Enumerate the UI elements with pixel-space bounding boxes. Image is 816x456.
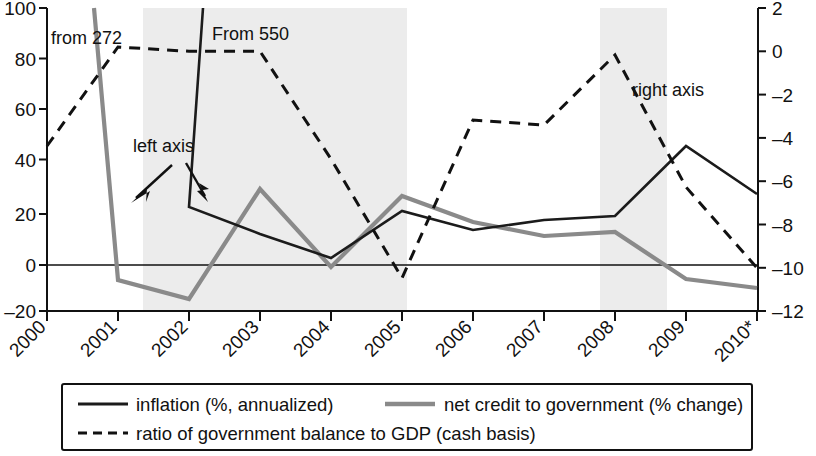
left-tick-label-100: 100 xyxy=(4,0,36,19)
annotation-from-550-label: From 550 xyxy=(212,24,289,44)
left-axis-ticks: 100 80 60 40 20 0 –20 xyxy=(4,0,47,322)
annotation-from-272-label: from 272 xyxy=(51,28,122,48)
left-tick-label-80: 80 xyxy=(15,49,36,70)
annotation-from-272: from 272 xyxy=(51,28,122,48)
x-axis-ticks: 2000 2001 2002 2003 2004 2005 2006 2007 … xyxy=(5,311,760,366)
right-tick-label-neg6: –6 xyxy=(772,171,793,192)
annotation-right-axis: right axis xyxy=(632,80,704,100)
x-tick-label-2009: 2009 xyxy=(644,316,689,361)
right-tick-label-neg4: –4 xyxy=(772,128,794,149)
right-tick-label-0: 0 xyxy=(772,41,783,62)
x-tick-label-2004: 2004 xyxy=(289,316,334,361)
right-tick-label-neg2: –2 xyxy=(772,85,793,106)
chart-svg: 100 80 60 40 20 0 –20 2 0 –2 –4 –6 –8 –1… xyxy=(0,0,816,456)
x-tick-label-2006: 2006 xyxy=(431,316,476,361)
right-tick-label-2: 2 xyxy=(772,0,783,19)
right-axis-ticks: 2 0 –2 –4 –6 –8 –10 –12 xyxy=(758,0,804,322)
x-tick-label-2010: 2010* xyxy=(710,316,760,366)
annotation-from-550: From 550 xyxy=(212,24,289,44)
x-tick-label-2007: 2007 xyxy=(502,316,547,361)
right-tick-label-neg10: –10 xyxy=(772,258,804,279)
legend-label-inflation: inflation (%, annualized) xyxy=(136,394,333,415)
chart-figure: 100 80 60 40 20 0 –20 2 0 –2 –4 –6 –8 –1… xyxy=(0,0,816,456)
x-tick-label-2005: 2005 xyxy=(360,316,405,361)
legend-label-net-credit: net credit to government (% change) xyxy=(444,394,743,415)
x-tick-label-2008: 2008 xyxy=(573,316,618,361)
right-tick-label-neg12: –12 xyxy=(772,301,804,322)
x-tick-label-2000: 2000 xyxy=(5,316,50,361)
x-tick-label-2003: 2003 xyxy=(218,316,263,361)
left-tick-label-40: 40 xyxy=(15,150,36,171)
annotation-right-axis-label: right axis xyxy=(632,80,704,100)
right-tick-label-neg8: –8 xyxy=(772,215,793,236)
legend: inflation (%, annualized) net credit to … xyxy=(62,384,752,450)
x-tick-label-2001: 2001 xyxy=(76,316,121,361)
legend-label-balance-to-gdp: ratio of government balance to GDP (cash… xyxy=(136,423,536,444)
annotation-left-axis-label: left axis xyxy=(133,136,194,156)
left-tick-label-60: 60 xyxy=(15,99,36,120)
left-tick-label-0: 0 xyxy=(25,255,36,276)
left-tick-label-20: 20 xyxy=(15,204,36,225)
x-tick-label-2002: 2002 xyxy=(147,316,192,361)
